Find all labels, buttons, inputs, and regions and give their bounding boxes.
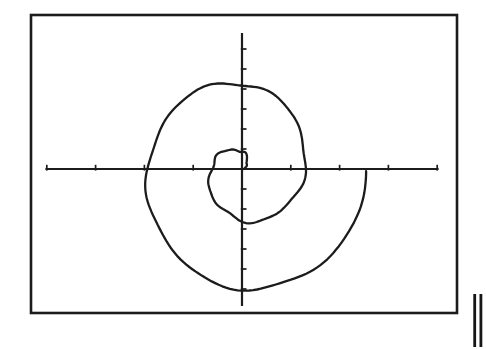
spiral-curve — [145, 83, 366, 290]
scanned-figure-page — [0, 0, 486, 349]
margin-bar — [473, 294, 476, 347]
double-bar-margin-mark — [473, 294, 482, 347]
calculator-screen-figure — [0, 0, 486, 349]
margin-bar — [480, 294, 483, 347]
